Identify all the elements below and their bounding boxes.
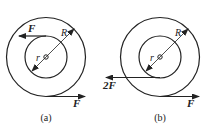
force-label: F xyxy=(186,97,195,109)
radius-label-R: R xyxy=(60,27,67,38)
radius-label-r: r xyxy=(150,52,154,63)
radius-R-arrow xyxy=(160,29,188,57)
radius-label-r: r xyxy=(36,52,40,63)
caption: (a) xyxy=(40,112,51,124)
figure-b: 2F F R r (b) xyxy=(102,18,200,125)
caption: (b) xyxy=(154,112,166,124)
force-label: F xyxy=(72,97,81,109)
radius-label-R: R xyxy=(174,27,181,38)
radius-R-arrow xyxy=(46,29,74,57)
force-label: F xyxy=(27,22,36,34)
force-label: 2F xyxy=(102,79,117,91)
diagram: F F R r (a) 2F F R r (b) xyxy=(0,0,214,131)
figure-a: F F R r (a) xyxy=(7,18,86,125)
